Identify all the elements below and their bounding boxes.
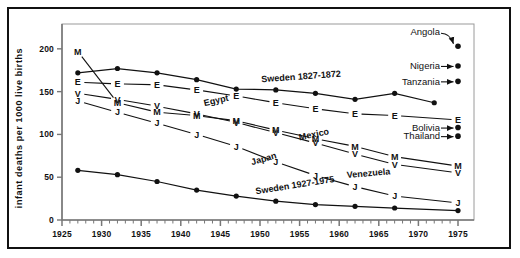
point-marker-letter: J xyxy=(392,191,397,201)
point-marker-letter: E xyxy=(233,91,239,101)
series-segment xyxy=(361,156,388,163)
figure-root: 0501001502001925193019351940194519501955… xyxy=(0,0,520,258)
data-point xyxy=(154,70,159,75)
point-marker-letter: J xyxy=(455,198,460,208)
y-tick-label-50: 50 xyxy=(44,172,54,182)
series-segment xyxy=(243,97,270,102)
series-segment xyxy=(401,197,451,202)
annotation-label: Nigeria xyxy=(410,60,441,71)
data-point xyxy=(154,179,159,184)
point-marker-letter: M xyxy=(74,47,82,57)
point-marker-letter: J xyxy=(234,142,239,152)
point-marker-letter: V xyxy=(194,109,200,119)
annotation-tanzania: Tanzania xyxy=(402,76,461,87)
data-point xyxy=(352,204,357,209)
point-marker-letter: V xyxy=(392,160,398,170)
series-sweden-1927-1975: Sweden 1927-1975 xyxy=(75,168,460,213)
point-marker-letter: E xyxy=(273,98,279,108)
series-segment xyxy=(203,136,230,144)
point-marker-letter: V xyxy=(154,101,160,111)
series-segment xyxy=(124,114,151,122)
x-tick-label-1940: 1940 xyxy=(171,229,191,239)
x-tick-label-1955: 1955 xyxy=(290,229,310,239)
series-segment xyxy=(84,82,111,83)
point-marker-letter: V xyxy=(455,168,461,178)
series-segment xyxy=(84,94,111,98)
point-marker-letter: E xyxy=(312,104,318,114)
point-marker-letter: E xyxy=(194,85,200,95)
series-segment xyxy=(322,140,349,145)
data-point xyxy=(455,208,460,213)
series-segment xyxy=(84,103,111,111)
series-segment xyxy=(401,158,452,166)
x-tick-label-1930: 1930 xyxy=(92,229,112,239)
series-segment xyxy=(163,125,190,133)
point-marker-letter: J xyxy=(115,107,120,117)
annotation-label: Thailand xyxy=(404,130,440,141)
x-tick-label-1970: 1970 xyxy=(409,229,429,239)
series-segment xyxy=(82,57,114,98)
annotation-arrow xyxy=(441,33,454,44)
series-segment xyxy=(282,164,309,173)
series-label: Egypt xyxy=(203,93,230,108)
y-tick-label-100: 100 xyxy=(39,129,54,139)
annotation-point xyxy=(455,133,461,139)
data-point xyxy=(392,205,397,210)
data-point xyxy=(75,168,80,173)
point-marker-letter: E xyxy=(154,80,160,90)
annotation-nigeria: Nigeria xyxy=(410,60,461,71)
data-point xyxy=(115,66,120,71)
data-point xyxy=(273,199,278,204)
x-tick-label-1935: 1935 xyxy=(131,229,151,239)
point-marker-letter: J xyxy=(194,130,199,140)
y-tick-label-150: 150 xyxy=(39,87,54,97)
data-point xyxy=(432,100,437,105)
series-segment xyxy=(362,114,389,115)
series-label: Sweden 1827-1872 xyxy=(261,69,341,85)
series-segment xyxy=(322,145,349,153)
x-tick-label-1965: 1965 xyxy=(369,229,389,239)
point-marker-letter: E xyxy=(455,115,461,125)
point-marker-letter: J xyxy=(155,118,160,128)
point-marker-letter: V xyxy=(312,138,318,148)
x-tick-label-1925: 1925 xyxy=(52,229,72,239)
infant-mortality-line-chart: 0501001502001925193019351940194519501955… xyxy=(0,0,520,258)
series-label: Sweden 1927-1975 xyxy=(255,174,335,196)
data-point xyxy=(75,70,80,75)
series-segment xyxy=(322,110,349,113)
annotation-point xyxy=(455,43,461,49)
annotation-point xyxy=(455,125,461,131)
x-tick-label-1960: 1960 xyxy=(329,229,349,239)
series-segment xyxy=(163,107,190,112)
x-tick-label-1945: 1945 xyxy=(211,229,231,239)
annotation-point xyxy=(455,79,461,85)
data-point xyxy=(115,172,120,177)
point-marker-letter: J xyxy=(75,96,80,106)
data-point xyxy=(392,91,397,96)
y-axis-title: infant deaths per 1000 live births xyxy=(14,48,24,208)
annotation-angola: Angola xyxy=(410,26,460,49)
point-marker-letter: V xyxy=(352,149,358,159)
point-marker-letter: V xyxy=(273,128,279,138)
x-tick-label-1950: 1950 xyxy=(250,229,270,239)
x-tick-label-1975: 1975 xyxy=(448,229,468,239)
point-marker-letter: E xyxy=(114,79,120,89)
data-point xyxy=(313,202,318,207)
point-marker-letter: E xyxy=(75,77,81,87)
data-point xyxy=(273,87,278,92)
series-segment xyxy=(401,165,451,172)
y-tick-label-0: 0 xyxy=(49,215,54,225)
series-segment xyxy=(124,84,151,85)
series-segment xyxy=(361,188,388,194)
point-marker-letter: E xyxy=(352,109,358,119)
y-tick-label-200: 200 xyxy=(39,44,54,54)
data-point xyxy=(313,91,318,96)
data-point xyxy=(234,193,239,198)
data-point xyxy=(194,77,199,82)
series-line xyxy=(78,69,434,103)
point-marker-letter: V xyxy=(233,118,239,128)
point-marker-letter: E xyxy=(392,111,398,121)
series-label: Venezuela xyxy=(346,166,391,180)
series-segment xyxy=(124,100,151,105)
annotation-label: Angola xyxy=(410,26,440,37)
